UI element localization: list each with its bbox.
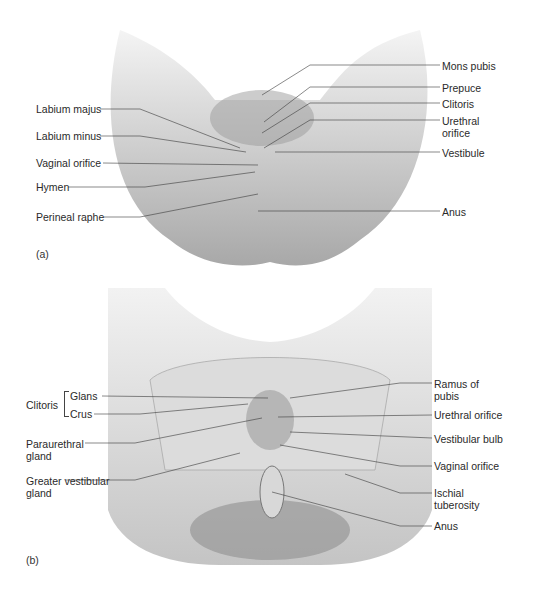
label-greater-vestibular-gland: Greater vestibular gland [26, 475, 111, 499]
label-anus-b: Anus [434, 520, 458, 532]
label-clitoris-a: Clitoris [442, 98, 474, 110]
label-labium-majus: Labium majus [36, 103, 101, 115]
label-vaginal-orifice-b: Vaginal orifice [434, 460, 499, 472]
label-crus: Crus [70, 408, 92, 420]
label-paraurethral-gland: Paraurethral gland [26, 438, 96, 462]
label-vaginal-orifice-a: Vaginal orifice [36, 157, 101, 169]
label-anus-a: Anus [442, 206, 466, 218]
label-perineal-raphe: Perineal raphe [36, 211, 104, 223]
panel-tag-a: (a) [36, 248, 49, 260]
label-urethral-orifice-b: Urethral orifice [434, 409, 502, 421]
label-clitoris-group: Clitoris [26, 399, 58, 411]
label-urethral-orifice-a: Urethral orifice [442, 115, 502, 139]
label-hymen: Hymen [36, 181, 69, 193]
label-ischial-tuberosity: Ischial tuberosity [434, 487, 494, 511]
label-vestibule: Vestibule [442, 147, 485, 159]
illustration-region-a [111, 30, 428, 266]
panel-a: (a) Labium majus Labium minus Vaginal or… [0, 0, 539, 280]
label-labium-minus: Labium minus [36, 130, 101, 142]
panel-tag-b: (b) [26, 554, 39, 566]
label-glans: Glans [70, 390, 97, 402]
illustration-b [0, 280, 539, 580]
label-mons-pubis: Mons pubis [442, 60, 496, 72]
clitoris-bracket [64, 391, 69, 417]
label-ramus-of-pubis: Ramus of pubis [434, 378, 489, 402]
label-vestibular-bulb: Vestibular bulb [434, 433, 503, 445]
label-prepuce: Prepuce [442, 82, 481, 94]
panel-b: (b) Clitoris Glans Crus Paraurethral gla… [0, 280, 539, 580]
